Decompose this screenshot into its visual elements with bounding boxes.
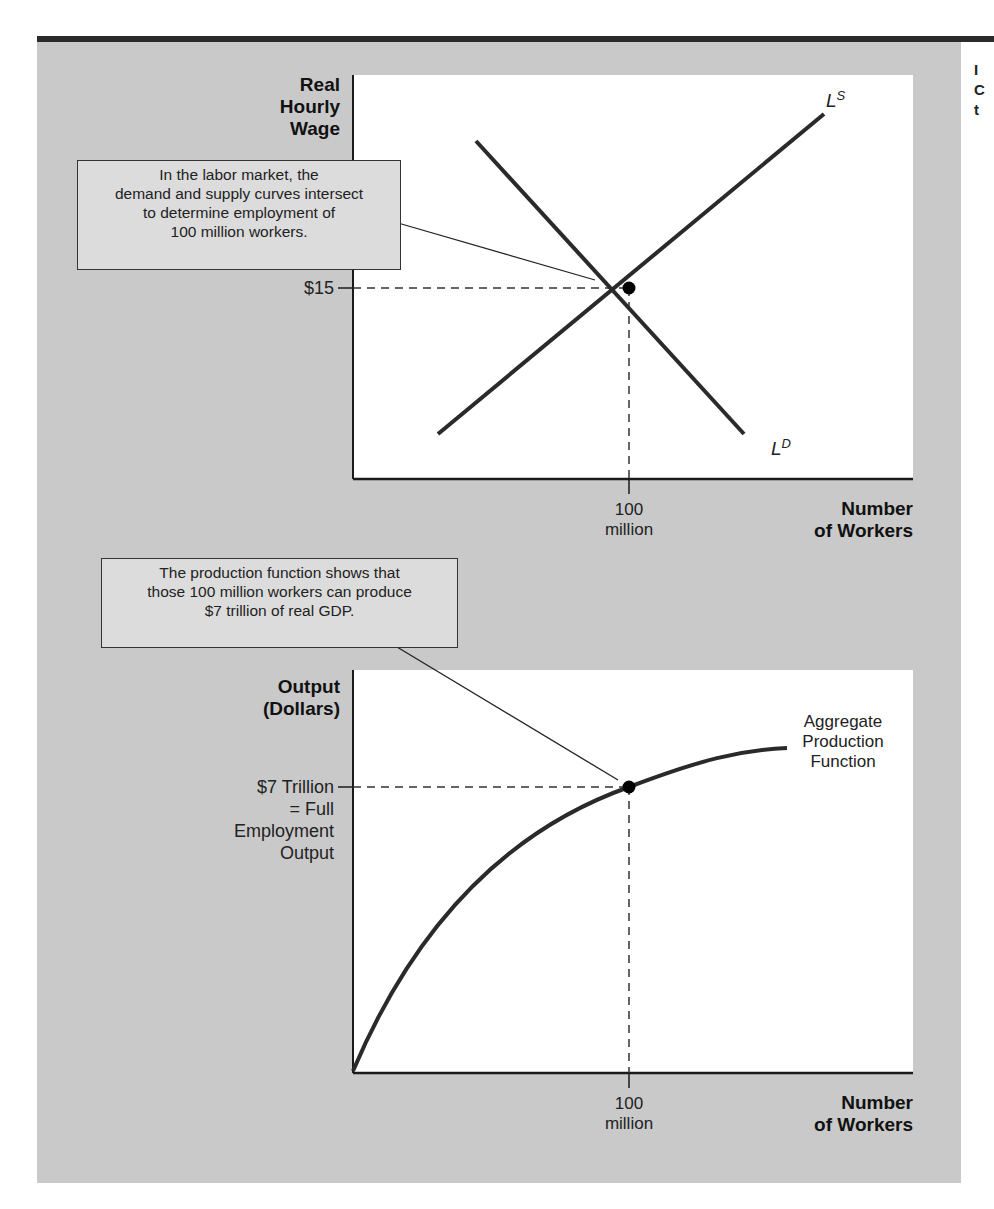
- full-employment-point: [623, 781, 636, 794]
- labor-equilibrium-point: [623, 282, 636, 295]
- output-tick-label: $7 Trillion = Full Employment Output: [200, 776, 334, 864]
- labor-demand-label: LD: [771, 436, 791, 460]
- labor-market-callout: In the labor market, the demand and supp…: [77, 160, 401, 270]
- labor-market-plot-area: [353, 75, 913, 479]
- labor-supply-label: LS: [826, 88, 845, 112]
- workers-tick-label-bottom: 100 million: [579, 1094, 679, 1134]
- workers-axis-label: Number of Workers: [763, 498, 913, 542]
- wage-tick-label: $15: [250, 277, 334, 299]
- production-callout: The production function shows that those…: [101, 558, 458, 648]
- wage-axis-label: Real Hourly Wage: [240, 74, 340, 140]
- production-function-label: Aggregate Production Function: [788, 712, 898, 772]
- workers-tick-label: 100 million: [579, 500, 679, 540]
- output-axis-label: Output (Dollars): [220, 676, 340, 720]
- workers-axis-label-bottom: Number of Workers: [763, 1092, 913, 1136]
